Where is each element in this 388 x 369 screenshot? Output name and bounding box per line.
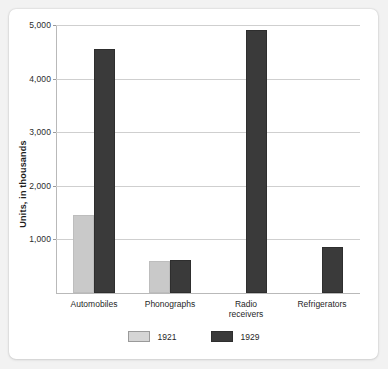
x-axis-line <box>56 293 360 294</box>
y-axis-title: Units, in thousands <box>18 140 28 227</box>
bar-phonographs-1929 <box>170 260 191 293</box>
y-axis-tick-label: 2,000 <box>29 181 51 191</box>
light-gray-swatch <box>128 331 150 342</box>
x-axis-label-automobiles: Automobiles <box>71 299 118 309</box>
y-axis-tick-mark <box>53 186 56 187</box>
gridline <box>56 25 360 26</box>
plot-area: 1,0002,0003,0004,0005,000 <box>56 25 360 293</box>
legend-item-1929[interactable]: 1929 <box>211 331 260 342</box>
y-axis-tick-mark <box>53 25 56 26</box>
y-axis-tick-label: 5,000 <box>29 20 51 30</box>
dark-gray-swatch <box>211 331 233 342</box>
page-background: Units, in thousands 1,0002,0003,0004,000… <box>0 0 388 369</box>
y-axis-tick-mark <box>53 239 56 240</box>
x-axis-label-refrigerators: Refrigerators <box>297 299 346 309</box>
legend-item-1921[interactable]: 1921 <box>128 331 177 342</box>
bar-automobiles-1929 <box>94 49 115 293</box>
y-axis-tick-mark <box>53 79 56 80</box>
bar-automobiles-1921 <box>73 215 94 293</box>
bar-refrigerators-1929 <box>322 247 343 293</box>
y-axis-tick-mark <box>53 132 56 133</box>
y-axis-tick-label: 4,000 <box>29 74 51 84</box>
chart-card: Units, in thousands 1,0002,0003,0004,000… <box>9 9 378 359</box>
bar-radio-receivers-1929 <box>246 30 267 293</box>
x-axis-label-radio-receivers: Radioreceivers <box>229 299 263 319</box>
y-axis-tick-label: 1,000 <box>29 234 51 244</box>
legend-label: 1929 <box>241 332 260 342</box>
x-axis-label-phonographs: Phonographs <box>145 299 196 309</box>
chart-legend: 19211929 <box>9 331 378 342</box>
y-axis-tick-label: 3,000 <box>29 127 51 137</box>
legend-label: 1921 <box>158 332 177 342</box>
bar-phonographs-1921 <box>149 261 170 293</box>
